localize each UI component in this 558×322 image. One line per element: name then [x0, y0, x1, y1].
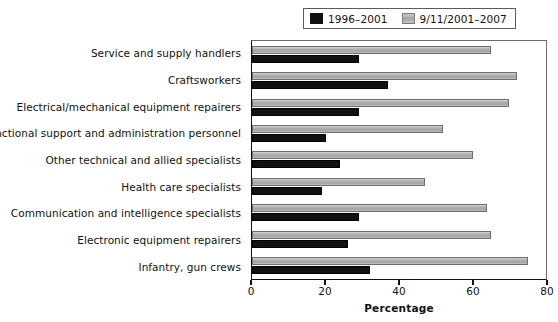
category-label: Other technical and allied specialists — [0, 147, 246, 174]
category-label: Functional support and administration pe… — [0, 120, 246, 147]
bar-black — [252, 240, 348, 248]
bar-black — [252, 266, 370, 274]
bar-black — [252, 187, 322, 195]
category-axis-labels: Service and supply handlers Craftsworker… — [0, 40, 246, 280]
category-label: Health care specialists — [0, 173, 246, 200]
bar-gray — [252, 151, 473, 159]
category-label: Electronic equipment repairers — [0, 227, 246, 254]
plot-area — [251, 40, 547, 280]
x-axis-tick-label: 80 — [540, 285, 553, 297]
bar-gray — [252, 99, 509, 107]
black-swatch-icon — [310, 13, 323, 24]
bar-black — [252, 134, 326, 142]
legend-entry-911-2001-2007: 9/11/2001–2007 — [402, 13, 507, 25]
bar-group — [252, 67, 546, 93]
bar-group — [252, 147, 546, 173]
category-label: Communication and intelligence specialis… — [0, 200, 246, 227]
bar-group — [252, 173, 546, 199]
bar-group — [252, 94, 546, 120]
bar-black — [252, 213, 359, 221]
bar-black — [252, 55, 359, 63]
gray-swatch-icon — [402, 13, 415, 24]
bar-gray — [252, 72, 517, 80]
bar-group — [252, 200, 546, 226]
bar-black — [252, 160, 340, 168]
category-label: Infantry, gun crews — [0, 253, 246, 280]
legend-label: 1996–2001 — [328, 13, 388, 25]
category-label: Electrical/mechanical equipment repairer… — [0, 93, 246, 120]
bar-black — [252, 81, 388, 89]
bar-group — [252, 253, 546, 279]
category-label: Craftsworkers — [0, 67, 246, 94]
bar-group — [252, 120, 546, 146]
bar-gray — [252, 178, 425, 186]
bar-group — [252, 41, 546, 67]
bar-gray — [252, 125, 443, 133]
chart-legend: 1996–2001 9/11/2001–2007 — [303, 8, 516, 29]
x-axis-tick-label: 20 — [318, 285, 331, 297]
bar-gray — [252, 204, 487, 212]
legend-entry-1996-2001: 1996–2001 — [310, 13, 388, 25]
x-axis-tick-label: 40 — [392, 285, 405, 297]
bar-gray — [252, 46, 491, 54]
bar-rows — [252, 41, 546, 279]
bar-black — [252, 108, 359, 116]
category-label: Service and supply handlers — [0, 40, 246, 67]
x-axis-tick-label: 60 — [466, 285, 479, 297]
legend-label: 9/11/2001–2007 — [420, 13, 507, 25]
x-axis-title: Percentage — [251, 302, 547, 314]
x-axis-tick-label: 0 — [248, 285, 255, 297]
x-axis: 020406080 — [251, 280, 547, 300]
bar-group — [252, 226, 546, 252]
bar-gray — [252, 257, 528, 265]
bar-gray — [252, 231, 491, 239]
